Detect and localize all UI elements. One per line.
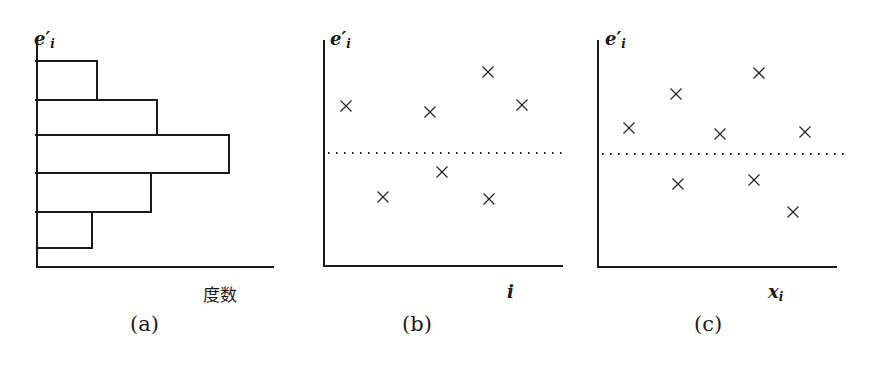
histogram-bar — [37, 135, 229, 173]
x-marker-icon — [425, 107, 436, 118]
panel-b-y-label: e′i — [330, 30, 351, 50]
panel-c-x-label: xi — [768, 283, 783, 303]
x-marker-icon — [671, 89, 682, 100]
histogram-bar — [37, 173, 151, 212]
x-marker-icon — [800, 127, 811, 138]
panel-c-scatter — [597, 40, 844, 268]
panel-c-y-label: e′i — [605, 30, 626, 50]
panel-c-markers — [624, 68, 811, 218]
panel-a-y-label: e′i — [34, 30, 55, 50]
x-marker-icon — [378, 192, 389, 203]
histogram-bar — [37, 61, 97, 100]
panel-a-caption: (a) — [130, 314, 159, 335]
x-marker-icon — [788, 207, 799, 218]
histogram-bar — [37, 212, 92, 248]
x-marker-icon — [483, 67, 494, 78]
panel-b-markers — [341, 67, 528, 205]
panel-a-x-label: 度数 — [203, 287, 237, 304]
panel-c-caption: (c) — [694, 314, 722, 335]
panel-b-caption: (b) — [402, 314, 432, 335]
x-marker-icon — [484, 194, 495, 205]
panel-a-bars — [35, 61, 229, 248]
x-marker-icon — [749, 175, 760, 186]
x-marker-icon — [673, 179, 684, 190]
panel-a-histogram — [35, 40, 274, 268]
x-marker-icon — [715, 129, 726, 140]
x-marker-icon — [341, 101, 352, 112]
x-marker-icon — [624, 123, 635, 134]
x-marker-icon — [437, 167, 448, 178]
x-marker-icon — [754, 68, 765, 79]
x-marker-icon — [517, 100, 528, 111]
panel-b-x-label: i — [507, 283, 514, 301]
histogram-bar — [37, 100, 157, 135]
panel-b-scatter — [323, 40, 568, 267]
